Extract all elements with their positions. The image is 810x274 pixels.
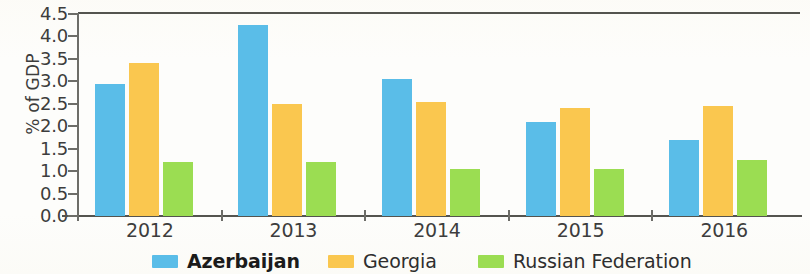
y-axis-tick-label: 2.5 — [26, 95, 68, 113]
y-axis-tick-mark — [68, 170, 79, 172]
legend-swatch-icon — [328, 255, 354, 268]
bar-russian-federation-2016 — [737, 160, 767, 216]
x-axis-tick-label-2013: 2013 — [222, 219, 366, 241]
y-axis-tick-mark — [68, 13, 79, 15]
bar-georgia-2014 — [416, 102, 446, 216]
bar-georgia-2012 — [129, 63, 159, 216]
x-axis-tick-mark — [651, 210, 653, 221]
y-axis-tick-mark — [68, 103, 79, 105]
y-axis-tick-mark — [68, 193, 79, 195]
y-axis-tick-labels: 4.54.03.53.02.52.01.51.00.50.0 — [26, 0, 68, 230]
bar-russian-federation-2014 — [450, 169, 480, 216]
y-axis-tick-mark — [68, 80, 79, 82]
x-axis-tick-mark — [364, 210, 366, 221]
bar-azerbaijan-2012 — [95, 84, 125, 216]
plot-area — [78, 14, 796, 216]
x-axis-tick-label-2016: 2016 — [652, 219, 796, 241]
legend-label: Azerbaijan — [187, 250, 300, 272]
chart-legend: AzerbaijanGeorgiaRussian Federation — [0, 248, 810, 274]
y-axis-tick-label: 3.0 — [26, 72, 68, 90]
bar-group-2015 — [509, 14, 653, 216]
x-axis-tick-mark — [77, 210, 79, 221]
bar-russian-federation-2013 — [306, 162, 336, 216]
legend-label: Georgia — [363, 250, 437, 272]
legend-item-georgia[interactable]: Georgia — [328, 248, 437, 274]
x-axis-tick-mark — [508, 210, 510, 221]
legend-swatch-icon — [478, 255, 504, 268]
y-axis-tick-label: 1.5 — [26, 140, 68, 158]
bar-azerbaijan-2015 — [526, 122, 556, 216]
bar-azerbaijan-2016 — [669, 140, 699, 216]
legend-item-russian-federation[interactable]: Russian Federation — [478, 248, 692, 274]
x-axis-tick-label-2015: 2015 — [509, 219, 653, 241]
bar-azerbaijan-2014 — [382, 79, 412, 216]
y-axis-tick-label: 4.5 — [26, 5, 68, 23]
bar-georgia-2015 — [560, 108, 590, 216]
bar-russian-federation-2012 — [163, 162, 193, 216]
bar-group-2012 — [78, 14, 222, 216]
y-axis-tick-label: 4.0 — [26, 27, 68, 45]
y-axis-tick-label: 3.5 — [26, 50, 68, 68]
y-axis-tick-label: 1.0 — [26, 162, 68, 180]
y-axis-tick-label: 0.5 — [26, 185, 68, 203]
x-axis-tick-label-2012: 2012 — [78, 219, 222, 241]
y-axis-tick-mark — [68, 58, 79, 60]
bar-georgia-2016 — [703, 106, 733, 216]
bar-chart-figure: % of GDP 4.54.03.53.02.52.01.51.00.50.0 … — [0, 0, 810, 274]
x-axis-tick-mark — [221, 210, 223, 221]
y-axis-tick-mark — [68, 125, 79, 127]
bar-russian-federation-2015 — [594, 169, 624, 216]
bar-group-2014 — [365, 14, 509, 216]
bar-group-2016 — [652, 14, 796, 216]
y-axis-tick-mark — [68, 35, 79, 37]
bar-azerbaijan-2013 — [238, 25, 268, 216]
legend-label: Russian Federation — [513, 250, 692, 272]
bar-georgia-2013 — [272, 104, 302, 216]
x-axis-tick-label-2014: 2014 — [365, 219, 509, 241]
legend-swatch-icon — [152, 255, 178, 268]
legend-item-azerbaijan[interactable]: Azerbaijan — [152, 248, 300, 274]
bar-group-2013 — [222, 14, 366, 216]
y-axis-tick-label: 2.0 — [26, 117, 68, 135]
y-axis-tick-mark — [68, 148, 79, 150]
